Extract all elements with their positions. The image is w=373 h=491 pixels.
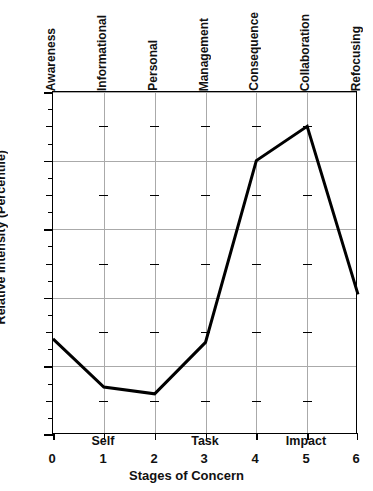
x-tick-label-5: 5	[291, 451, 321, 466]
y-axis-tick-10	[46, 401, 53, 402]
x-tick-label-1: 1	[88, 451, 118, 466]
stage-label-informational: Informational	[96, 15, 108, 91]
group-label-task: Task	[170, 434, 240, 448]
x-tick-label-3: 3	[189, 451, 219, 466]
y-axis-tick-100	[44, 92, 53, 94]
stage-label-management: Management	[198, 18, 210, 91]
x-tick-label-4: 4	[240, 451, 270, 466]
y-axis-tick-80	[44, 161, 53, 163]
y-axis-tick-90	[46, 126, 53, 127]
y-axis-title: Relative Intensity (Percentile)	[0, 150, 8, 324]
stage-label-refocusing: Refocusing	[350, 26, 362, 91]
stage-label-awareness: Awareness	[45, 28, 57, 91]
x-tick-label-0: 0	[37, 451, 67, 466]
y-axis-tick-20	[44, 366, 53, 368]
y-axis-tick-50	[46, 264, 53, 265]
y-axis-tick-0	[44, 434, 53, 436]
stages-of-concern-chart: Awareness Informational Personal Managem…	[0, 0, 373, 491]
y-axis-tick-70	[46, 195, 53, 196]
data-series-line	[53, 92, 358, 435]
group-label-impact: Impact	[271, 434, 341, 448]
group-label-self: Self	[68, 434, 138, 448]
y-axis-tick-40	[44, 298, 53, 300]
x-tick-label-2: 2	[139, 451, 169, 466]
y-axis-tick-30	[46, 332, 53, 333]
y-axis-tick-60	[44, 229, 53, 231]
x-tick-label-6: 6	[341, 451, 371, 466]
stage-label-personal: Personal	[147, 40, 159, 91]
stage-label-consequence: Consequence	[248, 12, 260, 91]
plot-area	[52, 91, 357, 434]
x-axis-title: Stages of Concern	[0, 468, 373, 483]
stage-label-collaboration: Collaboration	[299, 14, 311, 91]
stages-of-concern-polyline	[53, 126, 358, 394]
